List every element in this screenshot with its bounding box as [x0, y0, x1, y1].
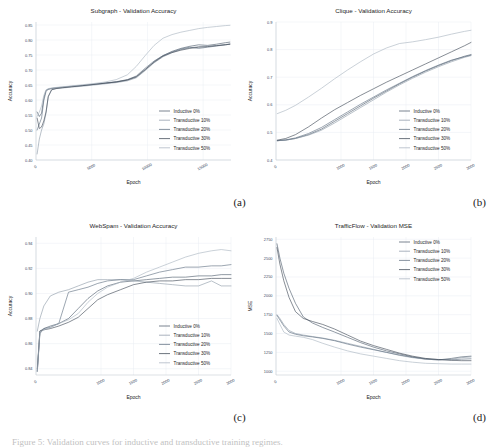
series-line — [37, 25, 230, 116]
legend-label: Transductive 50% — [174, 146, 211, 151]
x-axis-label: Epoch — [366, 394, 380, 400]
legend-label: Transductive 50% — [174, 361, 211, 366]
legend-label: Transductive 50% — [414, 277, 451, 282]
legend-label: Inductive 0% — [414, 109, 440, 114]
y-tick-label: 0.90 — [25, 291, 33, 296]
x-tick-label: 2500 — [433, 377, 444, 386]
legend-label: Transductive 10% — [414, 118, 451, 123]
x-tick-label: 1000 — [335, 377, 346, 386]
x-tick-label: 1500 — [368, 377, 379, 386]
y-axis-label: Accuracy — [247, 80, 253, 101]
y-tick-label: 0.84 — [25, 366, 33, 371]
y-tick-label: 0.55 — [25, 113, 33, 118]
y-tick-label: 0.6 — [267, 102, 272, 107]
y-tick-label: 0.7 — [267, 75, 272, 80]
x-tick-label: 0 — [273, 164, 278, 170]
series-line — [277, 318, 471, 364]
legend-label: Transductive 30% — [174, 136, 211, 141]
y-tick-label: 0.60 — [25, 98, 33, 103]
series-line — [277, 315, 471, 360]
x-tick-label: 1500 — [128, 377, 139, 386]
x-tick-label: 2500 — [433, 162, 444, 171]
series-line — [277, 248, 471, 361]
legend-label: Transductive 20% — [174, 127, 211, 132]
x-tick-label: 2000 — [400, 162, 411, 171]
y-tick-label: 0.40 — [25, 158, 33, 163]
chart-panel-subgraph: Subgraph - Validation Accuracy0.400.450.… — [0, 0, 239, 212]
x-tick-label: 1000 — [335, 162, 346, 171]
y-tick-label: 0.65 — [25, 83, 33, 88]
x-tick-label: 0 — [33, 379, 38, 385]
x-tick-label: 2500 — [193, 377, 204, 386]
y-tick-label: 0.85 — [25, 23, 33, 28]
x-axis-label: Epoch — [126, 179, 140, 185]
legend-label: Transductive 10% — [414, 249, 451, 254]
y-axis-label: Accuracy — [7, 80, 13, 101]
x-tick-label: 2000 — [160, 377, 171, 386]
y-axis-label: MSE — [247, 300, 253, 312]
legend-label: Transductive 20% — [414, 127, 451, 132]
y-tick-label: 1000 — [264, 369, 273, 374]
x-tick-label: 10000 — [141, 162, 154, 172]
x-tick-label: 15000 — [196, 162, 209, 172]
x-tick-label: 1000 — [95, 377, 106, 386]
y-axis-label: Accuracy — [7, 295, 13, 316]
legend-label: Transductive 10% — [174, 333, 211, 338]
x-tick-label: 2000 — [400, 377, 411, 386]
series-line — [37, 42, 230, 116]
x-tick-label: 1500 — [368, 162, 379, 171]
legend-label: Inductive 0% — [414, 240, 440, 245]
y-tick-label: 2000 — [264, 293, 273, 298]
y-tick-label: 0.9 — [267, 20, 272, 25]
chart-panel-webspam: WebSpam - Validation Accuracy0.840.860.8… — [0, 215, 239, 427]
legend-label: Inductive 0% — [174, 324, 200, 329]
legend-label: Transductive 30% — [414, 267, 451, 272]
legend-label: Transductive 20% — [174, 342, 211, 347]
y-tick-label: 2750 — [264, 237, 273, 242]
trafficflow-plot: TrafficFlow - Validation MSE100012501500… — [240, 215, 479, 411]
legend-label: Inductive 0% — [174, 109, 200, 114]
x-tick-label: 0 — [33, 164, 38, 170]
y-tick-label: 0.75 — [25, 53, 33, 58]
y-tick-label: 0.50 — [25, 128, 33, 133]
y-tick-label: 0.5 — [267, 130, 272, 135]
x-tick-label: 3000 — [465, 377, 476, 386]
clique-plot: Clique - Validation Accuracy0.40.50.60.7… — [240, 0, 479, 196]
subgraph-plot: Subgraph - Validation Accuracy0.400.450.… — [0, 0, 239, 196]
y-tick-label: 1750 — [264, 312, 273, 317]
y-tick-label: 0.80 — [25, 38, 33, 43]
x-tick-label: 3000 — [465, 162, 476, 171]
x-tick-label: 3000 — [225, 377, 236, 386]
y-tick-label: 0.70 — [25, 68, 33, 73]
webspam-plot: WebSpam - Validation Accuracy0.840.860.8… — [0, 215, 239, 411]
subfigure-label-d: (d) — [240, 411, 491, 423]
y-tick-label: 2250 — [264, 274, 273, 279]
chart-panel-clique: Clique - Validation Accuracy0.40.50.60.7… — [240, 0, 479, 212]
subfigure-label-b: (b) — [240, 196, 491, 208]
y-tick-label: 0.8 — [267, 47, 272, 52]
legend-label: Transductive 50% — [414, 146, 451, 151]
chart-title: Subgraph - Validation Accuracy — [91, 7, 178, 14]
legend-label: Transductive 30% — [174, 351, 211, 356]
series-line — [277, 30, 471, 113]
chart-panel-trafficflow: TrafficFlow - Validation MSE100012501500… — [240, 215, 479, 427]
y-tick-label: 0.92 — [25, 266, 33, 271]
chart-title: WebSpam - Validation Accuracy — [90, 222, 179, 229]
x-axis-label: Epoch — [126, 394, 140, 400]
series-line — [277, 42, 471, 140]
legend-label: Transductive 10% — [174, 118, 211, 123]
y-tick-label: 0.45 — [25, 143, 33, 148]
y-tick-label: 1500 — [264, 331, 273, 336]
figure-caption: Figure 5: Validation curves for inductiv… — [12, 437, 472, 447]
y-tick-label: 0.4 — [267, 158, 273, 163]
y-tick-label: 0.88 — [25, 316, 33, 321]
y-tick-label: 1250 — [264, 350, 273, 355]
y-tick-label: 0.94 — [25, 241, 33, 246]
legend-label: Transductive 30% — [414, 136, 451, 141]
chart-title: Clique - Validation Accuracy — [335, 7, 412, 14]
x-tick-label: 5000 — [86, 162, 97, 171]
x-axis-label: Epoch — [366, 179, 380, 185]
chart-title: TrafficFlow - Validation MSE — [335, 222, 412, 229]
y-tick-label: 0.86 — [25, 341, 33, 346]
